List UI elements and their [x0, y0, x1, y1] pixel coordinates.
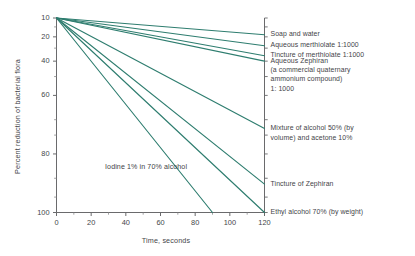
- series-line-7: [57, 18, 213, 213]
- annotation-iodine: Iodine 1% in 70% alcohol: [105, 163, 187, 171]
- y-axis-ticks: [53, 18, 57, 213]
- x-tick-label: 120: [254, 218, 276, 227]
- series-label-line: Ethyl alcohol 70% (by weight): [271, 207, 364, 216]
- x-tick-label: 100: [219, 218, 241, 227]
- x-tick-label: 20: [80, 218, 102, 227]
- x-tick-label: 60: [150, 218, 172, 227]
- series-label: Tincture of Zephiran: [271, 179, 334, 188]
- x-tick-label: 80: [184, 218, 206, 227]
- series-label-line: Soap and water: [271, 29, 320, 38]
- y-tick-label: 60: [28, 90, 50, 99]
- series-label-line: (a commercial quaternary: [271, 65, 351, 74]
- data-series-group: [57, 18, 265, 213]
- y-tick-label: 10: [28, 13, 50, 22]
- y-axis-title: Percent reduction of bacterial flora: [13, 47, 22, 187]
- series-label: Aqueous Zephiran(a commercial quaternary…: [271, 56, 351, 94]
- series-label-line: Tincture of Zephiran: [271, 179, 334, 188]
- chart-container: Percent reduction of bacterial flora Tim…: [0, 0, 415, 256]
- x-tick-label: 0: [46, 218, 68, 227]
- y-tick-label: 20: [28, 32, 50, 41]
- series-label: Mixture of alcohol 50% (byvolume) and ac…: [271, 123, 354, 142]
- series-label: Ethyl alcohol 70% (by weight): [271, 207, 364, 216]
- series-label-line: 1: 1000: [271, 84, 351, 93]
- x-axis-ticks: [57, 213, 265, 217]
- series-label-line: Mixture of alcohol 50% (by: [271, 123, 354, 132]
- x-tick-label: 40: [115, 218, 137, 227]
- series-line-2: [57, 18, 265, 56]
- y-tick-label: 100: [28, 208, 50, 217]
- series-line-3: [57, 18, 265, 61]
- series-label-line: Aqueous Zephiran: [271, 56, 351, 65]
- series-line-6: [57, 18, 265, 213]
- series-label-line: Aqueous merthiolate 1:1000: [271, 40, 359, 49]
- y-tick-label: 80: [28, 149, 50, 158]
- series-line-5: [57, 18, 265, 184]
- y-tick-label: 40: [28, 56, 50, 65]
- series-label: Aqueous merthiolate 1:1000: [271, 40, 359, 49]
- series-label-line: volume) and acetone 10%: [271, 133, 354, 142]
- series-label: Soap and water: [271, 29, 320, 38]
- x-axis-title: Time, seconds: [106, 236, 226, 245]
- series-line-4: [57, 18, 265, 129]
- series-label-line: ammonium compound): [271, 74, 351, 83]
